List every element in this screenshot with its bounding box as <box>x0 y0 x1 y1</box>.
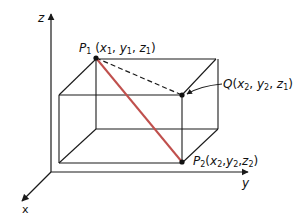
diagonal-p1-p2 <box>96 58 182 162</box>
x-axis-label: x <box>22 203 29 216</box>
edge-top-right-depth <box>182 59 216 95</box>
y-axis-label: y <box>241 176 250 190</box>
box-edges <box>59 59 218 163</box>
diagram-canvas: z y x P1 (x1, y1, z1) Q(x2, y2, z1) P2(x… <box>0 0 302 219</box>
x-axis <box>22 172 51 201</box>
point-p1 <box>93 55 98 60</box>
label-p1: P1 (x1, y1, z1) <box>79 41 156 56</box>
point-p2 <box>179 159 184 164</box>
label-q: Q(x2, y2, z1) <box>223 77 293 92</box>
q-leader-arrow <box>187 84 222 94</box>
edge-top-left-depth <box>59 59 96 95</box>
dashed-p1-q <box>96 58 182 95</box>
z-axis-label: z <box>37 11 45 25</box>
distance-3d-diagram: z y x P1 (x1, y1, z1) Q(x2, y2, z1) P2(x… <box>0 0 302 219</box>
point-q <box>179 92 184 97</box>
label-p2: P2(x2,y2,z2) <box>193 154 258 169</box>
edge-bottom-left-depth <box>59 129 96 163</box>
